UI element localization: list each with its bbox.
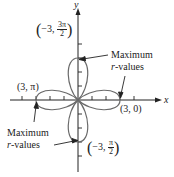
annotation-lower-line1: Maximum [7,127,49,139]
point-label-right: (3, 0) [120,104,142,114]
annotation-upper-line1: Maximum [111,49,153,61]
annotation-lower: Maximum r-values [7,127,49,151]
annotation-upper: Maximum r-values [111,49,153,73]
y-axis-label: y [74,0,78,10]
x-axis-arrow-icon [155,98,162,103]
point-label-top: (−3, 3π2) [36,21,72,38]
point-label-bottom: (−3, π2) [87,139,119,156]
point-label-left: (3, π) [17,82,39,92]
x-axis-label: x [164,95,168,105]
